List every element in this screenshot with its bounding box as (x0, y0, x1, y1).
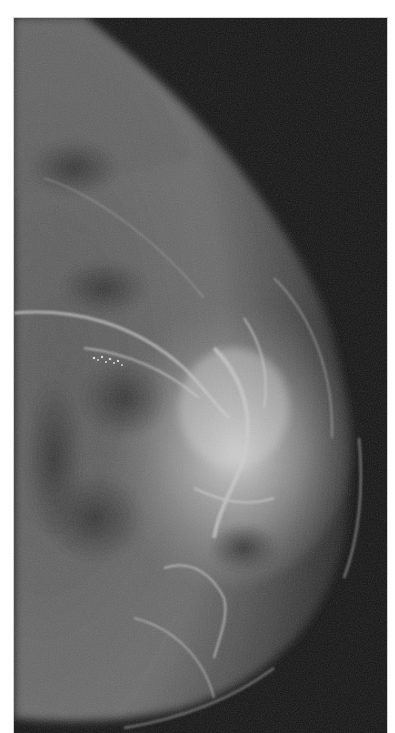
breast-tissue-illustration (14, 18, 387, 733)
mammogram-image (13, 17, 388, 733)
